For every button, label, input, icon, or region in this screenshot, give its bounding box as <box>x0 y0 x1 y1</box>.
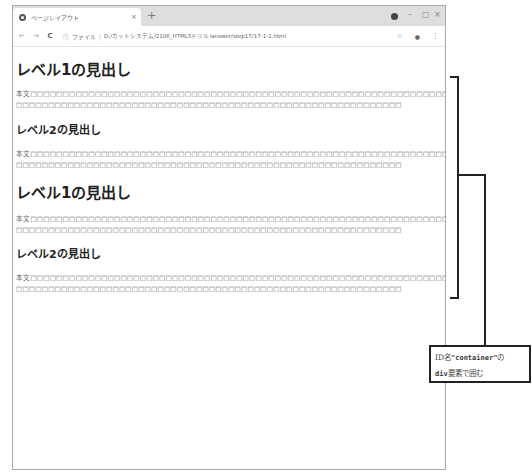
body-paragraph: 本文□□□□□□□□□□□□□□□□□□□□□□□□□□□□□□□□□□□□□□… <box>16 273 446 295</box>
extension-icon[interactable] <box>391 13 398 20</box>
tab-title: ページレイアウト <box>31 13 127 22</box>
info-icon[interactable]: ⓘ <box>63 32 69 41</box>
back-button[interactable]: ← <box>15 32 29 40</box>
profile-icon[interactable]: ● <box>415 33 420 40</box>
body-line: 本文□□□□□□□□□□□□□□□□□□□□□□□□□□□□□□□□□□□□□□… <box>16 214 446 225</box>
annotation-callout: ID名"container"の div要素で囲む <box>429 345 531 383</box>
container-bracket-bottom <box>450 297 459 299</box>
new-tab-button[interactable]: + <box>147 8 156 24</box>
callout-text: の <box>497 353 504 362</box>
close-tab-icon[interactable]: × <box>127 13 141 21</box>
minimize-button[interactable]: – <box>408 8 412 22</box>
scheme-label: ファイル <box>72 32 96 41</box>
reload-button[interactable]: C <box>43 32 57 40</box>
globe-icon <box>19 14 26 21</box>
browser-window: ページレイアウト × + – □ × ← → C ⓘ ファイル | D:/カット… <box>12 5 446 470</box>
body-paragraph: 本文□□□□□□□□□□□□□□□□□□□□□□□□□□□□□□□□□□□□□□… <box>16 214 446 236</box>
body-line: □□□□□□□□□□□□□□□□□□□□□□□□□□□□□□□□□□□□□□□□… <box>16 284 446 295</box>
close-window-button[interactable]: × <box>434 8 441 22</box>
callout-line-2: div要素で囲む <box>435 366 525 382</box>
callout-connector <box>457 174 486 176</box>
callout-line-1: ID名"container"の <box>435 350 525 366</box>
bookmark-star-icon[interactable]: ☆ <box>396 32 402 40</box>
body-line: □□□□□□□□□□□□□□□□□□□□□□□□□□□□□□□□□□□□□□□□… <box>16 225 446 236</box>
tab-bar: ページレイアウト × + – □ × <box>13 6 445 26</box>
toolbar-right: ☆ ● ⋮ <box>396 26 439 46</box>
callout-text: ID名 <box>435 353 451 362</box>
forward-button[interactable]: → <box>29 32 43 40</box>
heading-level1: レベル1の見出し <box>16 61 131 79</box>
callout-connector <box>484 174 486 346</box>
page-content: レベル1の見出し 本文□□□□□□□□□□□□□□□□□□□□□□□□□□□□□… <box>13 47 445 469</box>
body-line: 本文□□□□□□□□□□□□□□□□□□□□□□□□□□□□□□□□□□□□□□… <box>16 89 446 100</box>
heading-level2: レベル2の見出し <box>16 248 101 262</box>
callout-code: "container" <box>451 354 497 362</box>
body-paragraph: 本文□□□□□□□□□□□□□□□□□□□□□□□□□□□□□□□□□□□□□□… <box>16 89 446 111</box>
body-line: □□□□□□□□□□□□□□□□□□□□□□□□□□□□□□□□□□□□□□□□… <box>16 100 446 111</box>
address-bar: ← → C ⓘ ファイル | D:/カットシステム/2106_HTML5ドリル/… <box>13 26 445 47</box>
body-line: 本文□□□□□□□□□□□□□□□□□□□□□□□□□□□□□□□□□□□□□□… <box>16 149 446 160</box>
heading-level2: レベル2の見出し <box>16 124 101 138</box>
menu-icon[interactable]: ⋮ <box>432 32 439 40</box>
container-bracket <box>457 76 459 299</box>
heading-level1: レベル1の見出し <box>16 184 131 202</box>
body-paragraph: 本文□□□□□□□□□□□□□□□□□□□□□□□□□□□□□□□□□□□□□□… <box>16 149 446 171</box>
url-separator: | <box>99 33 101 40</box>
callout-code: div <box>435 370 448 378</box>
maximize-button[interactable]: □ <box>422 8 430 22</box>
body-line: □□□□□□□□□□□□□□□□□□□□□□□□□□□□□□□□□□□□□□□□… <box>16 160 446 171</box>
url-input[interactable]: D:/カットシステム/2106_HTML5ドリル/answer/step17/1… <box>104 32 286 40</box>
tab-page-layout[interactable]: ページレイアウト × <box>13 8 141 26</box>
container-bracket-top <box>450 76 459 78</box>
body-line: 本文□□□□□□□□□□□□□□□□□□□□□□□□□□□□□□□□□□□□□□… <box>16 273 446 284</box>
callout-text: 要素で囲む <box>448 369 483 378</box>
